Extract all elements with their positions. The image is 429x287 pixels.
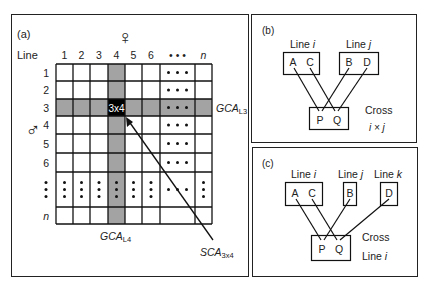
row-header: 5 [43,138,49,150]
col-header: 4 [114,49,120,61]
male-symbol-icon: ♂ [26,118,41,140]
row-header: 4 [43,119,49,131]
sca-label: SCA3x4 [200,246,234,260]
allele-p: P [316,114,323,126]
col-header: 3 [96,49,102,61]
line-j-label: Line j [346,38,372,50]
allele-q: Q [335,243,343,255]
row-header: 6 [43,157,49,169]
col-header: n [201,49,207,61]
panel-c: (c) Line i Line j Line k A C B D P Q Cro… [262,158,403,262]
col-header: • • • [169,49,186,61]
panel-a-label: (a) [17,28,30,40]
col-header: 6 [148,49,154,61]
allele-b: B [345,56,352,68]
allele-c: C [306,56,314,68]
col-header: 5 [131,49,137,61]
panel-b: (b) Line i Line j A C B D P Q Cross i × … [262,25,392,133]
line-i-label: Line i [291,168,317,180]
line-k-label: Line k [374,168,403,180]
line-j-label: Line j [338,168,364,180]
gca-col-highlight [108,64,125,224]
panel-a: (a) Line ♀ ♂ 123456• • •n123456n3x4 GCAL… [17,26,247,260]
female-symbol-icon: ♀ [118,26,133,48]
allele-d: D [385,187,393,199]
cross-label: Cross [365,104,392,116]
allele-p: P [318,243,325,255]
cross-box [312,236,351,261]
col-header: 1 [62,49,68,61]
cross-box [310,108,349,130]
row-header: 1 [43,67,49,79]
sca-arrow [128,120,213,240]
row-header: 3 [43,102,49,114]
cross-sub-label: i × j [369,122,386,133]
panel-c-label: (c) [262,158,274,169]
cross-sub-label: Line i [362,250,388,262]
gca-col-label: GCAL4 [100,230,131,244]
allele-b: B [346,187,353,199]
diallel-grid: 123456• • •n123456n3x4 [43,49,212,224]
gca-row-highlight [56,99,212,116]
row-header: 2 [43,84,49,96]
allele-q: Q [333,114,341,126]
allele-c: C [308,187,316,199]
allele-a: A [289,56,296,68]
col-header: 2 [79,49,85,61]
row-header: n [43,210,49,222]
line-header-label: Line [17,49,38,61]
cross-label: Cross [362,231,389,243]
diagram-canvas: (a) Line ♀ ♂ 123456• • •n123456n3x4 GCAL… [0,0,429,287]
gca-row-label: GCAL3 [216,102,247,116]
allele-d: D [363,56,371,68]
line-i-label: Line i [290,38,316,50]
panel-b-label: (b) [262,25,274,36]
cross-cell-label: 3x4 [108,103,125,114]
allele-a: A [291,187,298,199]
